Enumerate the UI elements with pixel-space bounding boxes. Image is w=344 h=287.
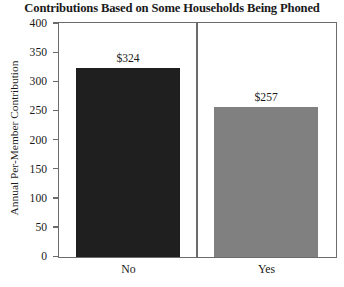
y-axis-tick-label: 50 (35, 221, 47, 234)
y-axis-tick-mark (53, 22, 59, 23)
y-axis-tick-mark (53, 168, 59, 169)
y-axis-tick-label: 250 (30, 104, 47, 117)
y-axis-tick-mark (53, 139, 59, 140)
y-axis-tick-label: 400 (30, 17, 47, 30)
plot-frame: 050100150200250300350400$324$257 (58, 22, 337, 258)
bar-yes: $257 (214, 107, 318, 257)
y-axis-tick-mark (53, 197, 59, 198)
plot-area: 050100150200250300350400$324$257 (59, 23, 336, 257)
y-axis-tick-label: 200 (30, 133, 47, 146)
y-axis-tick-mark (53, 110, 59, 111)
y-axis-tick-label: 300 (30, 75, 47, 88)
x-axis-label-no: No (59, 262, 197, 277)
x-axis-label-yes: Yes (198, 262, 336, 277)
chart-title: Contributions Based on Some Households B… (0, 1, 344, 16)
panel-divider (196, 23, 197, 257)
y-axis-tick-mark (53, 256, 59, 257)
y-axis-tick-label: 150 (30, 162, 47, 175)
y-axis-tick-label: 100 (30, 191, 47, 204)
y-axis-tick-mark (53, 226, 59, 227)
y-axis-tick-mark (53, 81, 59, 82)
y-axis-tick-label: 0 (41, 250, 47, 263)
bar-value-label: $324 (116, 52, 139, 65)
y-axis-tick-mark (53, 52, 59, 53)
bar-no: $324 (76, 68, 180, 257)
y-axis-title: Annual Per-Member Contribution (8, 18, 20, 258)
bar-value-label: $257 (255, 91, 278, 104)
y-axis-tick-label: 350 (30, 46, 47, 59)
chart-root: Contributions Based on Some Households B… (0, 0, 344, 287)
